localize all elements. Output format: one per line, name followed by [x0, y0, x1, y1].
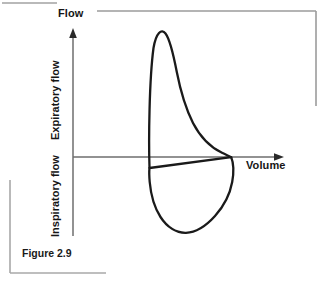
expiratory-limb [149, 31, 231, 168]
flow-volume-curve [149, 31, 233, 232]
inspiratory-limb [149, 157, 233, 233]
flow-volume-loop-figure [0, 0, 336, 289]
y-axis-arrowhead [69, 28, 77, 38]
expiratory-flow-label: Expiratory flow [50, 61, 61, 140]
x-axis-title: Volume [246, 160, 286, 171]
figure-container: Flow Volume Expiratory flow Inspiratory … [0, 0, 336, 289]
y-axis-title: Flow [58, 8, 83, 19]
inspiratory-flow-label: Inspiratory flow [50, 155, 61, 237]
figure-caption: Figure 2.9 [22, 247, 72, 259]
y-axis [69, 28, 77, 236]
